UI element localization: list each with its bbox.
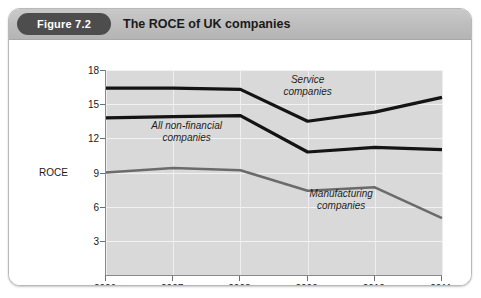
x-axis-tick-mark [307,276,308,281]
series-annotation-line: companies [310,200,373,212]
figure-card: Figure 7.2 The ROCE of UK companies ROCE… [8,8,472,286]
series-annotation-line: companies [283,86,331,98]
chart-body: ROCE 369121518 200620072008200920102011 … [9,40,471,285]
gridline-vertical [442,70,443,275]
y-axis-tick-label: 6 [75,201,99,212]
y-axis-tick-label: 12 [75,133,99,144]
figure-header: Figure 7.2 The ROCE of UK companies [9,9,471,40]
x-axis-tick-label: 2007 [150,283,194,286]
series-annotation-line: All non-financial [151,120,222,132]
x-axis-tick-mark [172,276,173,281]
series-annotation-line: Service [283,74,331,86]
y-axis-tick-label: 18 [75,65,99,76]
series-annotation-line: companies [151,132,222,144]
series-line [106,168,442,218]
plot-area: ServicecompaniesAll non-financialcompani… [105,70,442,276]
x-axis-tick-label: 2009 [285,283,329,286]
figure-title: The ROCE of UK companies [123,13,290,35]
x-axis-tick-label: 2010 [352,283,396,286]
x-axis-tick-mark [105,276,106,281]
series-annotation: All non-financialcompanies [151,120,222,144]
y-axis-title: ROCE [39,167,68,178]
x-axis-tick-label: 2006 [83,283,127,286]
figure-number-badge: Figure 7.2 [17,13,111,35]
y-axis-tick-label: 3 [75,235,99,246]
x-axis-tick-label: 2011 [419,283,463,286]
x-axis-tick-mark [441,276,442,281]
y-axis-tick-label: 9 [75,167,99,178]
screenshot-root: Figure 7.2 The ROCE of UK companies ROCE… [0,0,481,298]
x-axis-tick-label: 2008 [217,283,261,286]
x-axis-tick-mark [374,276,375,281]
series-annotation: Manufacturingcompanies [310,188,373,212]
series-annotation: Servicecompanies [283,74,331,98]
series-lines [106,70,442,275]
x-axis-tick-mark [239,276,240,281]
series-annotation-line: Manufacturing [310,188,373,200]
y-axis-tick-label: 15 [75,99,99,110]
